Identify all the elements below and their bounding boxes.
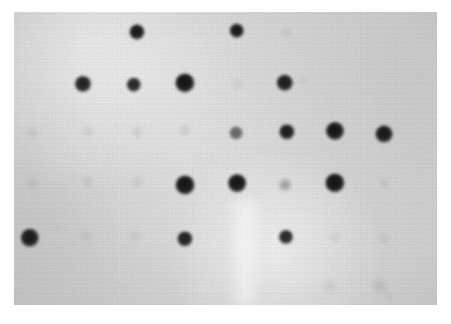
spot-r2c5 <box>232 80 242 90</box>
spot-r3c1 <box>28 128 38 138</box>
spot-r3c7 <box>326 122 344 140</box>
spot-r4c7 <box>325 173 344 192</box>
spot-r5c1 <box>21 229 39 247</box>
film-streak-artifact <box>228 200 262 305</box>
spot-r6c8 <box>374 280 386 292</box>
spot-r3c2 <box>83 127 93 137</box>
spot-r3c5 <box>230 127 243 140</box>
film-grain-texture <box>14 12 437 305</box>
spot-r4c4 <box>176 176 195 195</box>
spot-r3c6 <box>279 124 294 139</box>
spot-r4c8 <box>379 179 389 189</box>
spot-r4c2 <box>83 177 93 187</box>
smudge-mid-left <box>54 224 60 228</box>
spot-r4c1 <box>28 178 38 188</box>
spot-r4c5 <box>228 174 246 192</box>
spot-r1c6 <box>282 29 291 38</box>
spot-r2c6 <box>277 75 293 91</box>
spot-r5c8 <box>379 233 389 243</box>
spot-r1c5 <box>230 24 244 38</box>
blot-membrane <box>14 12 437 305</box>
spot-r5c6 <box>279 230 293 244</box>
spot-r1c3 <box>130 25 145 40</box>
spot-r6c7 <box>324 281 335 292</box>
smudge-upper-right <box>299 77 307 83</box>
spot-r3c8 <box>376 126 393 143</box>
spot-r2c2 <box>75 76 91 92</box>
spot-r3c3 <box>132 127 142 137</box>
spot-r5c4 <box>177 231 192 246</box>
film-vignette <box>14 12 437 305</box>
spot-r5c7 <box>330 232 340 242</box>
spot-r5c3 <box>130 231 140 241</box>
spot-r2c3 <box>127 78 141 92</box>
smudge-lower-right <box>384 293 394 299</box>
spot-r4c3 <box>132 177 142 187</box>
dot-blot-figure <box>0 0 451 324</box>
spot-r5c2 <box>81 231 91 241</box>
spot-r3c4 <box>180 126 190 136</box>
smudge-center <box>204 156 216 164</box>
spot-r4c6 <box>280 180 291 191</box>
spot-r2c4 <box>175 73 194 92</box>
